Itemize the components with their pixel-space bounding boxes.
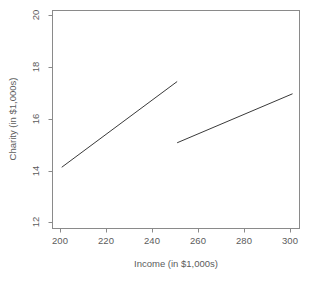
x-axis-ticks xyxy=(61,229,291,233)
data-line-segment-2 xyxy=(177,94,292,143)
x-tick-label-280: 280 xyxy=(236,235,252,246)
x-tick-label-240: 240 xyxy=(144,235,160,246)
plot-frame xyxy=(53,11,300,229)
y-axis-title: Charity (in $1,000s) xyxy=(7,78,18,161)
data-series-group xyxy=(62,82,293,168)
y-tick-label-20: 20 xyxy=(30,10,41,21)
x-tick-label-260: 260 xyxy=(190,235,206,246)
plot-canvas: 20 18 16 14 12 200 220 240 260 280 300 I… xyxy=(0,0,310,281)
y-tick-label-12: 12 xyxy=(30,217,41,228)
x-tick-label-200: 200 xyxy=(52,235,68,246)
x-tick-label-300: 300 xyxy=(282,235,298,246)
x-axis-tick-labels: 200 220 240 260 280 300 xyxy=(52,235,298,246)
y-axis-ticks xyxy=(49,16,53,223)
y-tick-label-14: 14 xyxy=(30,166,41,177)
x-tick-label-220: 220 xyxy=(98,235,114,246)
y-axis-tick-labels: 20 18 16 14 12 xyxy=(30,10,41,228)
y-tick-label-18: 18 xyxy=(30,62,41,73)
x-axis-title: Income (in $1,000s) xyxy=(134,258,218,269)
chart-figure: 20 18 16 14 12 200 220 240 260 280 300 I… xyxy=(0,0,310,281)
data-line-segment-1 xyxy=(62,82,177,168)
y-tick-label-16: 16 xyxy=(30,114,41,125)
